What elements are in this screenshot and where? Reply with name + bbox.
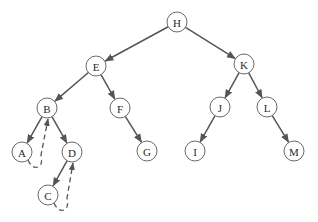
- node-i: I: [185, 141, 205, 161]
- node-label: B: [43, 103, 50, 115]
- node-a: A: [12, 142, 32, 162]
- edge-d-c: [53, 161, 67, 186]
- edge-f-g: [125, 116, 141, 142]
- node-e: E: [86, 56, 106, 76]
- edge-h-e: [105, 27, 168, 61]
- edge-j-i: [200, 116, 215, 142]
- edge-k-l: [249, 73, 262, 98]
- node-h: H: [167, 12, 187, 32]
- node-j: J: [210, 97, 230, 117]
- edge-l-m: [272, 116, 288, 143]
- node-label: A: [18, 147, 26, 159]
- node-label: J: [218, 102, 223, 114]
- node-label: K: [240, 59, 248, 71]
- node-label: E: [93, 61, 100, 73]
- edge-b-d: [52, 117, 67, 143]
- node-f: F: [110, 98, 130, 118]
- node-label: D: [68, 147, 76, 159]
- node-d: D: [62, 142, 82, 162]
- threaded-binary-tree-diagram: HEKBFJLADGIMC: [0, 0, 318, 222]
- node-label: L: [264, 102, 271, 114]
- edge-e-f: [101, 75, 115, 99]
- node-label: C: [44, 190, 51, 202]
- node-b: B: [37, 98, 57, 118]
- node-label: F: [117, 103, 123, 115]
- edge-h-k: [185, 27, 235, 58]
- node-m: M: [284, 141, 304, 161]
- thread-c-to-d: [54, 163, 73, 210]
- nodes-layer: HEKBFJLADGIMC: [12, 12, 304, 205]
- node-label: I: [193, 146, 197, 158]
- node-label: G: [143, 146, 151, 158]
- node-label: H: [173, 17, 181, 29]
- node-l: L: [257, 97, 277, 117]
- node-g: G: [137, 141, 157, 161]
- thread-a-to-b: [28, 119, 48, 167]
- node-c: C: [38, 185, 58, 205]
- node-label: M: [289, 146, 299, 158]
- edge-e-b: [55, 73, 88, 102]
- edge-k-j: [225, 73, 239, 98]
- edge-b-a: [27, 117, 42, 143]
- node-k: K: [234, 54, 254, 74]
- edges-layer: [27, 27, 288, 186]
